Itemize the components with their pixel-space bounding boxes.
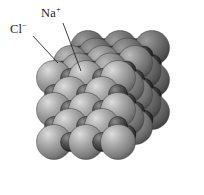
sodium-ion-label-text: Na: [41, 6, 56, 20]
sodium-ion-label: Na+: [41, 7, 61, 20]
chloride-ion-label: Cl−: [10, 23, 27, 36]
cl-leader-line: [33, 36, 58, 63]
chloride-ion-charge: −: [22, 20, 27, 30]
chloride-ion-sphere: [101, 125, 136, 160]
ion-sphere-group: [37, 31, 170, 160]
nacl-crystal-figure: Na+ Cl−: [0, 0, 204, 195]
crystal-lattice-drawing: [0, 0, 204, 195]
sodium-ion-charge: +: [56, 4, 61, 14]
chloride-ion-label-text: Cl: [10, 22, 22, 36]
